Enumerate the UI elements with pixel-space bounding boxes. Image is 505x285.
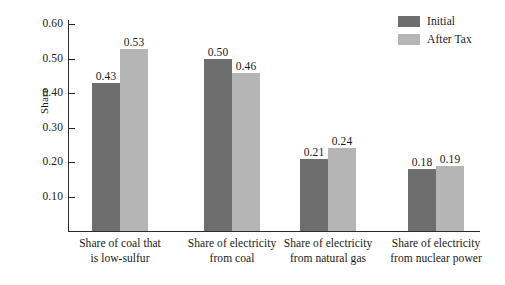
legend-label: After Tax (427, 33, 472, 45)
bar-initial: 0.50 (204, 59, 232, 231)
category-label-line: from natural gas (268, 251, 388, 266)
bar-after-tax: 0.46 (232, 73, 260, 231)
bar-value-label: 0.50 (208, 46, 229, 58)
x-axis-category-label: Share of electricityfrom nuclear power (376, 236, 496, 265)
category-label-line: from nuclear power (376, 251, 496, 266)
chart-legend: InitialAfter Tax (398, 13, 472, 49)
plot-area: 0.430.530.500.460.210.240.180.19 (68, 20, 480, 231)
bar-group: 0.430.53 (92, 20, 148, 231)
legend-item: Initial (398, 13, 472, 29)
legend-swatch (398, 16, 420, 27)
bar-group: 0.210.24 (300, 20, 356, 231)
x-axis-line (68, 231, 480, 232)
bar-group: 0.180.19 (408, 20, 464, 231)
x-axis-category-label: Share of electricityfrom natural gas (268, 236, 388, 265)
legend-label: Initial (427, 15, 455, 27)
legend-item: After Tax (398, 31, 472, 47)
legend-swatch (398, 34, 420, 45)
y-axis-tick-label: 0.60 (42, 17, 63, 29)
y-axis-tick-label: 0.30 (42, 121, 63, 133)
category-label-line: Share of electricity (376, 236, 496, 251)
y-axis-tick-label: 0.40 (42, 86, 63, 98)
bar-after-tax: 0.24 (328, 148, 356, 231)
category-label-line: Share of coal that (60, 236, 180, 251)
category-label-line: Share of electricity (268, 236, 388, 251)
y-axis-tick-label: 0.20 (42, 155, 63, 167)
bar-value-label: 0.53 (124, 36, 145, 48)
x-axis-category-label: Share of coal thatis low-sulfur (60, 236, 180, 265)
bar-value-label: 0.43 (96, 70, 117, 82)
bar-value-label: 0.19 (440, 153, 461, 165)
bar-after-tax: 0.19 (436, 166, 464, 231)
y-axis-tick-label: 0.10 (42, 190, 63, 202)
bar-initial: 0.21 (300, 159, 328, 231)
bar-initial: 0.43 (92, 83, 120, 231)
bar-value-label: 0.21 (304, 146, 325, 158)
bar-group: 0.500.46 (204, 20, 260, 231)
bar-value-label: 0.46 (236, 60, 257, 72)
bar-value-label: 0.24 (332, 135, 353, 147)
bar-after-tax: 0.53 (120, 49, 148, 231)
bar-chart: Share 0.100.200.300.400.500.60 0.430.530… (0, 0, 505, 285)
bar-initial: 0.18 (408, 169, 436, 231)
category-label-line: is low-sulfur (60, 251, 180, 266)
y-axis-tick-label: 0.50 (42, 52, 63, 64)
bar-value-label: 0.18 (412, 156, 433, 168)
